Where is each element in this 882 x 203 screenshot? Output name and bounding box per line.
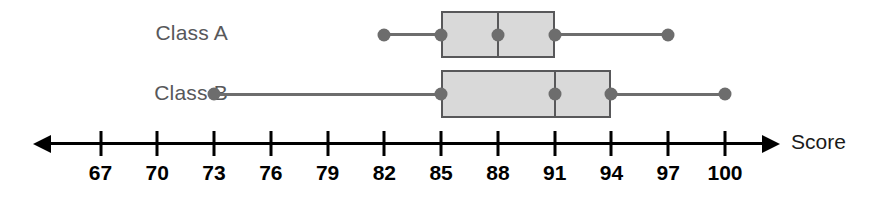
- series-label-class-b: Class B: [0, 81, 228, 105]
- whisker-lower-class-a: [384, 33, 441, 36]
- axis-tick-94: [610, 131, 613, 156]
- axis-tick-label-88: 88: [468, 161, 528, 185]
- whisker-lower-class-b: [214, 93, 441, 96]
- axis-arrow-right-icon: [762, 135, 780, 153]
- axis-tick-91: [553, 131, 556, 156]
- axis-line: [45, 142, 765, 145]
- marker-q3-class-b: [605, 88, 618, 101]
- axis-tick-85: [440, 131, 443, 156]
- axis-tick-88: [496, 131, 499, 156]
- marker-max-class-b: [719, 88, 732, 101]
- axis-tick-70: [156, 131, 159, 156]
- marker-q1-class-b: [435, 88, 448, 101]
- axis-tick-97: [667, 131, 670, 156]
- axis-tick-label-94: 94: [581, 161, 641, 185]
- axis-tick-label-73: 73: [184, 161, 244, 185]
- series-label-class-a: Class A: [0, 21, 228, 45]
- axis-tick-label-79: 79: [298, 161, 358, 185]
- marker-min-class-b: [208, 88, 221, 101]
- axis-tick-label-97: 97: [638, 161, 698, 185]
- axis-tick-79: [326, 131, 329, 156]
- axis-tick-82: [383, 131, 386, 156]
- marker-median-class-a: [491, 28, 504, 41]
- axis-title: Score: [791, 130, 846, 154]
- marker-q1-class-a: [435, 28, 448, 41]
- box-plot-figure: Class A Class B 677073767982858891949710…: [0, 0, 882, 203]
- axis-tick-label-91: 91: [525, 161, 585, 185]
- marker-q3-class-a: [548, 28, 561, 41]
- axis-tick-label-100: 100: [695, 161, 755, 185]
- box-iqr-class-b: [441, 70, 611, 118]
- axis-tick-label-67: 67: [71, 161, 131, 185]
- axis-tick-label-82: 82: [354, 161, 414, 185]
- axis-tick-100: [724, 131, 727, 156]
- marker-min-class-a: [378, 28, 391, 41]
- axis-tick-label-85: 85: [411, 161, 471, 185]
- whisker-upper-class-a: [555, 33, 669, 36]
- axis-tick-76: [269, 131, 272, 156]
- axis-arrow-left-icon: [33, 135, 51, 153]
- whisker-upper-class-b: [611, 93, 725, 96]
- marker-median-class-b: [548, 88, 561, 101]
- axis-tick-73: [213, 131, 216, 156]
- axis-tick-label-76: 76: [241, 161, 301, 185]
- marker-max-class-a: [662, 28, 675, 41]
- axis-tick-label-70: 70: [127, 161, 187, 185]
- axis-tick-67: [99, 131, 102, 156]
